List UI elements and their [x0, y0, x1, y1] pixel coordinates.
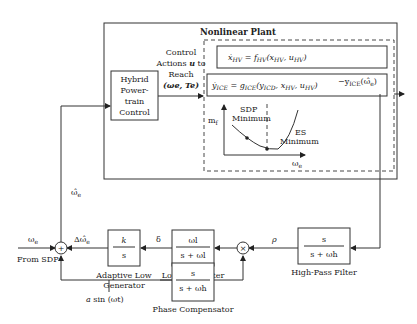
high-pass-filter-caption: High-Pass Filter: [291, 268, 357, 277]
svg-text:s: s: [322, 235, 326, 244]
high-pass-filter-block: s s + ωh High-Pass Filter: [291, 228, 357, 277]
adaptive-low-generator-block: k s Adaptive Low Generator: [95, 230, 151, 290]
sdp-label-2: Minimum: [232, 114, 271, 123]
delta-omega-label: Δω̂e: [74, 235, 90, 245]
svg-text:Hybrid: Hybrid: [120, 75, 148, 84]
control-block-diagram: Nonlinear Plant ẋHV = fHV(xHV, uHV) ẏICE…: [0, 0, 417, 324]
hybrid-powertrain-control-block: Hybrid Power- train Control: [111, 71, 158, 120]
svg-text:Reach: Reach: [168, 70, 193, 79]
adaptive-low-caption-2: Generator: [103, 281, 145, 290]
svg-text:Control: Control: [166, 48, 197, 57]
svg-text:s + ωh: s + ωh: [310, 250, 338, 259]
svg-text:train: train: [125, 97, 145, 106]
hv-equation-box: ẋHV = fHV(xHV, uHV): [217, 46, 387, 68]
svg-text:s + ωh: s + ωh: [179, 284, 207, 293]
omega-hat-label: ω̂e: [71, 188, 82, 198]
svg-text:s: s: [122, 251, 126, 260]
multiplier-junction: ×: [237, 242, 249, 254]
es-minimum-point: [265, 147, 269, 151]
svg-text:×: ×: [240, 244, 247, 253]
svg-text:Power-: Power-: [121, 86, 149, 95]
svg-text:+: +: [58, 244, 65, 253]
svg-text:ωl: ωl: [188, 236, 198, 245]
adaptive-low-caption-1: Adaptive Low: [95, 271, 151, 280]
delta-label: δ: [156, 235, 161, 244]
omega-input-label: ωe: [28, 235, 39, 245]
svg-text:s + ωl: s + ωl: [181, 251, 206, 260]
feedback-to-control-line: [61, 106, 110, 242]
sdp-point: [245, 136, 249, 140]
plant-title: Nonlinear Plant: [200, 27, 276, 37]
from-sdp-label: From SDP: [17, 255, 59, 264]
svg-text:s: s: [191, 269, 195, 278]
rho-label: ρ: [271, 235, 277, 244]
svg-text:Control: Control: [119, 108, 150, 117]
es-label-1: ES: [295, 128, 306, 137]
sdp-label-1: SDP: [240, 105, 258, 114]
phase-compensator-caption: Phase Compensator: [153, 305, 234, 314]
svg-text:k: k: [122, 236, 127, 245]
summing-junction: +: [55, 242, 67, 254]
dither-label: a sin (ωt): [86, 295, 124, 304]
svg-text:(ωe, Te): (ωe, Te): [163, 80, 199, 90]
svg-text:Actions u to: Actions u to: [155, 58, 205, 68]
es-label-2: Minimum: [280, 137, 319, 146]
